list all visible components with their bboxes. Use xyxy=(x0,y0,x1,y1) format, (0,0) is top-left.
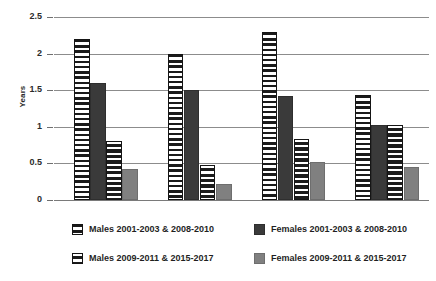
y-tick-mark xyxy=(47,200,53,201)
y-axis-title: Years xyxy=(18,77,27,117)
y-tick-label: 1.5 xyxy=(4,85,42,94)
bar xyxy=(387,125,403,200)
bar xyxy=(216,184,232,200)
bar xyxy=(200,165,216,200)
legend-label: Males 2009-2011 & 2015-2017 xyxy=(89,254,214,263)
y-tick-mark xyxy=(47,54,53,55)
legend-label: Males 2001-2003 & 2008-2010 xyxy=(89,225,214,234)
legend-item[interactable]: Females 2009-2011 & 2015-2017 xyxy=(254,247,407,269)
bar-group xyxy=(54,17,148,200)
bar-chart: Years 00.511.522.5 Males 2001-2003 & 200… xyxy=(0,0,436,281)
y-tick-mark xyxy=(47,17,53,18)
bar xyxy=(262,32,278,200)
legend-row: Males 2001-2003 & 2008-2010Females 2001-… xyxy=(54,218,424,240)
legend-item[interactable]: Males 2001-2003 & 2008-2010 xyxy=(72,218,214,240)
legend-swatch-icon xyxy=(72,224,83,235)
legend-swatch-icon xyxy=(254,253,265,264)
bar xyxy=(310,162,326,200)
plot-area xyxy=(54,17,429,200)
legend-swatch-icon xyxy=(72,253,83,264)
bar xyxy=(294,139,310,200)
legend-swatch-icon xyxy=(254,224,265,235)
y-tick-label: 0.5 xyxy=(4,158,42,167)
legend-row: Males 2009-2011 & 2015-2017Females 2009-… xyxy=(54,247,424,269)
bar xyxy=(184,90,200,200)
y-tick-mark xyxy=(47,163,53,164)
bar xyxy=(74,39,90,200)
bar xyxy=(106,141,122,200)
y-tick-mark xyxy=(47,90,53,91)
y-tick-mark xyxy=(47,127,53,128)
y-tick-label: 0 xyxy=(4,195,42,204)
legend-label: Females 2009-2011 & 2015-2017 xyxy=(271,254,407,263)
y-tick-label: 1 xyxy=(4,122,42,131)
legend-item[interactable]: Males 2009-2011 & 2015-2017 xyxy=(72,247,214,269)
y-tick-label: 2 xyxy=(4,49,42,58)
bar xyxy=(355,95,371,200)
legend-label: Females 2001-2003 & 2008-2010 xyxy=(271,225,407,234)
bar-group xyxy=(335,17,429,200)
bar xyxy=(90,83,106,200)
bar xyxy=(168,54,184,200)
bar xyxy=(404,167,420,200)
legend-item[interactable]: Females 2001-2003 & 2008-2010 xyxy=(254,218,407,240)
bar xyxy=(371,125,387,200)
y-tick-label: 2.5 xyxy=(4,12,42,21)
bar-group xyxy=(242,17,336,200)
bar xyxy=(278,96,294,200)
bar xyxy=(122,169,138,200)
bar-group xyxy=(148,17,242,200)
gridline xyxy=(54,200,429,201)
chart-legend: Males 2001-2003 & 2008-2010Females 2001-… xyxy=(54,218,424,276)
